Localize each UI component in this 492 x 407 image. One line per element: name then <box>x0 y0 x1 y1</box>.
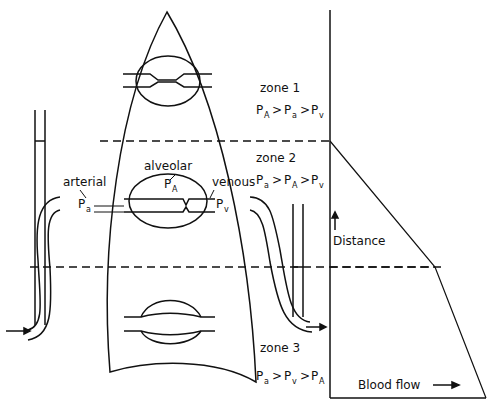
zone3-relation: Pa > Pv > PA <box>256 369 325 386</box>
venous-manometer <box>293 204 303 317</box>
svg-text:P: P <box>256 369 263 383</box>
svg-text:v: v <box>319 181 324 190</box>
svg-text:A: A <box>264 111 270 120</box>
svg-text:>: > <box>300 173 310 187</box>
svg-text:v: v <box>319 111 324 120</box>
svg-text:a: a <box>264 181 269 190</box>
arterial-label: arterial <box>63 175 106 189</box>
svg-text:P: P <box>256 173 263 187</box>
arterial-tube <box>28 197 60 340</box>
svg-text:A: A <box>292 181 298 190</box>
svg-text:A: A <box>172 185 178 194</box>
pa-arterial-label: Pa <box>78 197 91 214</box>
blood-flow-axis-label: Blood flow <box>358 378 421 392</box>
alveolar-label: alveolar <box>144 159 192 173</box>
svg-text:P: P <box>284 103 291 117</box>
zone1-relation: PA > Pa > Pv <box>256 103 324 120</box>
venous-label: venous <box>212 175 255 189</box>
svg-text:A: A <box>319 377 325 386</box>
svg-text:>: > <box>272 369 282 383</box>
svg-text:P: P <box>284 173 291 187</box>
zone3-alveolus <box>124 301 215 344</box>
west-zones-diagram: zone 1 zone 2 zone 3 PA > Pa > Pv Pa > P… <box>0 0 492 407</box>
svg-text:v: v <box>224 205 229 214</box>
svg-text:>: > <box>300 369 310 383</box>
svg-text:a: a <box>264 377 269 386</box>
svg-text:a: a <box>292 111 297 120</box>
svg-text:P: P <box>164 177 171 191</box>
svg-text:P: P <box>311 173 318 187</box>
svg-text:>: > <box>300 103 310 117</box>
svg-text:P: P <box>311 369 318 383</box>
distance-axis-label: Distance <box>333 234 385 248</box>
svg-text:v: v <box>292 377 297 386</box>
svg-text:P: P <box>311 103 318 117</box>
zone1-alveolus <box>123 56 212 106</box>
svg-text:P: P <box>256 103 263 117</box>
pv-venous-label: Pv <box>216 197 229 214</box>
svg-text:P: P <box>216 197 223 211</box>
svg-text:P: P <box>78 197 85 211</box>
svg-text:P: P <box>284 369 291 383</box>
zone3-label: zone 3 <box>260 341 300 355</box>
svg-text:>: > <box>272 173 282 187</box>
zone2-label: zone 2 <box>256 151 296 165</box>
zone1-label: zone 1 <box>260 81 300 95</box>
svg-text:>: > <box>272 103 282 117</box>
zone2-relation: Pa > PA > Pv <box>256 173 324 190</box>
blood-flow-curve <box>330 141 486 398</box>
svg-text:a: a <box>86 205 91 214</box>
